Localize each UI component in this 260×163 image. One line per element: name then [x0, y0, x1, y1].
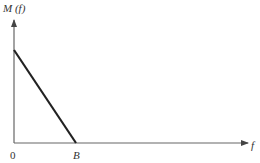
origin-label: 0 [10, 150, 16, 161]
bandwidth-label: B [73, 150, 80, 161]
y-axis-label: M (f) [3, 3, 25, 14]
spectrum-diagram: M (f) 0 B f [0, 0, 260, 163]
spectrum-line [14, 50, 76, 143]
x-axis-label: f [251, 140, 254, 151]
